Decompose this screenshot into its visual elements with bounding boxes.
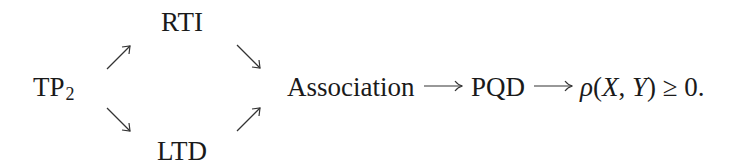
node-correlation-inequality: ρ(X, Y) ≥ 0. [580, 74, 705, 101]
long-right-arrow-icon [424, 75, 464, 95]
close-paren: ) [647, 72, 656, 102]
var-x: X [602, 72, 619, 102]
arrow-ne-icon [107, 46, 131, 70]
long-right-arrow-icon [534, 75, 574, 95]
arrow-se-icon [107, 108, 131, 132]
node-tp2: TP2 [33, 74, 75, 103]
arrow-se-icon [237, 45, 261, 69]
rho-symbol: ρ [580, 72, 593, 102]
arrow-ne-icon [237, 108, 261, 132]
node-association: Association [287, 74, 415, 101]
var-y: Y [632, 72, 647, 102]
open-paren: ( [593, 72, 602, 102]
tp2-subscript: 2 [66, 84, 75, 104]
relation-geq-zero: ≥ 0. [656, 72, 705, 102]
node-rti: RTI [161, 9, 203, 36]
comma: , [618, 72, 632, 102]
tp2-base: TP [33, 72, 65, 102]
node-pqd: PQD [471, 74, 525, 101]
node-ltd: LTD [157, 138, 207, 165]
